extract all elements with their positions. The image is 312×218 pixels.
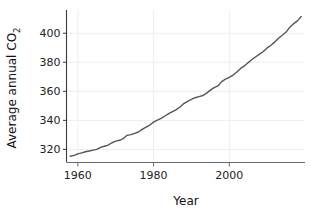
y-tick-label: 320	[40, 143, 61, 156]
x-axis-title: Year	[172, 194, 198, 208]
chart-figure: 320340360380400 196019802000 Year Averag…	[0, 0, 312, 218]
y-tick-label: 380	[40, 56, 61, 69]
y-tick-label: 400	[40, 27, 61, 40]
x-tick-label: 1980	[140, 169, 168, 182]
y-tick-label: 360	[40, 85, 61, 98]
x-tick-label: 2000	[215, 169, 243, 182]
x-axis-tick-labels: 196019802000	[64, 169, 243, 182]
y-tick-label: 340	[40, 114, 61, 127]
y-axis-title-subscript: 2	[12, 27, 22, 32]
co2-line-chart: 320340360380400 196019802000 Year Averag…	[0, 0, 312, 218]
x-tick-label: 1960	[64, 169, 92, 182]
y-axis-title-text: Average annual CO	[5, 33, 19, 149]
